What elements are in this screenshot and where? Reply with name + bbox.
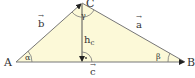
triangle-diagram: A B C b → a → c → α β γ hc	[0, 0, 195, 78]
triangle-svg: A B C b → a → c → α β γ hc	[0, 0, 195, 78]
angle-gamma-label: γ	[81, 11, 86, 20]
right-angle-dot	[85, 57, 87, 59]
vertex-C-label: C	[86, 0, 94, 10]
vertex-A-label: A	[3, 56, 13, 69]
angle-alpha-label: α	[25, 53, 31, 62]
side-a-vector-arrow: →	[136, 13, 142, 21]
side-b-vector-arrow: →	[38, 12, 44, 20]
angle-beta-label: β	[156, 52, 161, 61]
vertex-B-label: B	[187, 56, 195, 69]
side-c-vector-arrow: →	[90, 61, 96, 69]
